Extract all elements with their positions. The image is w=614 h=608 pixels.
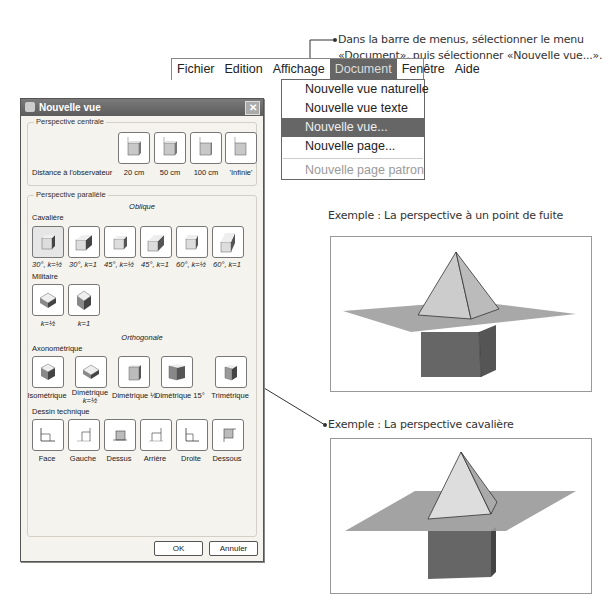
cavaliere-60-half-button[interactable] — [176, 226, 208, 258]
bottom-view-icon — [213, 420, 243, 450]
dimetrique-half-button[interactable] — [75, 356, 107, 388]
face-button[interactable] — [32, 419, 64, 451]
cavaliere-30-1-button[interactable] — [68, 226, 100, 258]
option-label: 30°, k=½ — [28, 260, 66, 269]
option-label: 50 cm — [154, 168, 186, 177]
option-label: 45°, k=1 — [136, 260, 174, 269]
option-label: Dimétrique ½ — [112, 391, 154, 400]
oblique-heading: Oblique — [28, 202, 256, 211]
option-label: 100 cm — [190, 168, 222, 177]
group-perspective-parallele: Perspective parallèle Oblique Cavalière … — [27, 195, 257, 537]
option-label: 60°, k=1 — [208, 260, 246, 269]
option-label: 20 cm — [118, 168, 150, 177]
dessin-technique-label: Dessin technique — [32, 407, 90, 416]
cube-icon — [33, 227, 63, 257]
cavaliere-45-1-button[interactable] — [140, 226, 172, 258]
cube-icon — [76, 357, 106, 387]
menu-bar: Fichier Edition Affichage Document Fenêt… — [171, 58, 424, 80]
option-label: 45°, k=½ — [100, 260, 138, 269]
distance-label: Distance à l'observateur — [32, 168, 112, 177]
option-label: Dessous — [210, 454, 244, 463]
cube-icon — [33, 285, 63, 315]
example-one-point-image — [330, 236, 592, 392]
cancel-button[interactable]: Annuler — [209, 541, 258, 556]
option-label: 'Infinie' — [225, 168, 257, 177]
cube-icon — [33, 357, 63, 387]
menu-fichier[interactable]: Fichier — [172, 59, 220, 80]
menu-edition[interactable]: Edition — [220, 59, 268, 80]
dessous-button[interactable] — [212, 419, 244, 451]
cube-icon — [213, 227, 243, 257]
cube-icon — [141, 227, 171, 257]
nouvelle-vue-dialog: Nouvelle vue ✕ Perspective centrale Dist… — [20, 98, 264, 562]
option-label: Droite — [174, 454, 208, 463]
dessus-button[interactable] — [104, 419, 136, 451]
cube-icon — [216, 357, 246, 387]
menu-item-nouvelle-vue-naturelle[interactable]: Nouvelle vue naturelle — [282, 80, 424, 99]
ok-button[interactable]: OK — [154, 541, 203, 556]
cavaliere-45-half-button[interactable] — [104, 226, 136, 258]
pyramid-one-point-illustration — [331, 237, 591, 391]
gauche-button[interactable] — [68, 419, 100, 451]
central-infinie-button[interactable] — [225, 132, 257, 164]
menu-item-nouvelle-vue-texte[interactable]: Nouvelle vue texte — [282, 99, 424, 118]
top-view-icon — [105, 420, 135, 450]
option-label: Face — [30, 454, 64, 463]
option-label: Trimétrique — [209, 391, 251, 400]
cube-icon — [119, 357, 149, 387]
trimetrique-button[interactable] — [215, 356, 247, 388]
app-icon — [25, 102, 35, 112]
militaire-1-button[interactable] — [68, 284, 100, 316]
menu-fenetre[interactable]: Fenêtre — [397, 59, 450, 80]
example-cavaliere-image — [330, 438, 592, 594]
menu-affichage[interactable]: Affichage — [268, 59, 330, 80]
dimetrique-demi-button[interactable] — [118, 356, 150, 388]
cube-icon — [69, 285, 99, 315]
face-view-icon — [33, 420, 63, 450]
arriere-button[interactable] — [140, 419, 172, 451]
option-label: k=½ — [32, 319, 64, 328]
central-50cm-button[interactable] — [154, 132, 186, 164]
menu-separator — [283, 158, 423, 159]
back-view-icon — [141, 420, 171, 450]
right-view-icon — [177, 420, 207, 450]
option-label: Gauche — [66, 454, 100, 463]
close-icon[interactable]: ✕ — [245, 101, 260, 115]
document-menu: Nouvelle vue naturelle Nouvelle vue text… — [281, 79, 425, 180]
option-label: k=½ — [69, 396, 111, 405]
cavaliere-label: Cavalière — [32, 213, 64, 222]
menu-document[interactable]: Document — [330, 59, 397, 80]
droite-button[interactable] — [176, 419, 208, 451]
cube-icon — [119, 133, 149, 163]
cube-icon — [177, 227, 207, 257]
militaire-half-button[interactable] — [32, 284, 64, 316]
central-20cm-button[interactable] — [118, 132, 150, 164]
cube-icon — [162, 357, 192, 387]
cavaliere-60-1-button[interactable] — [212, 226, 244, 258]
option-label: k=1 — [68, 319, 100, 328]
cavaliere-30-half-button[interactable] — [32, 226, 64, 258]
menu-item-nouvelle-vue[interactable]: Nouvelle vue... — [282, 118, 424, 137]
pyramid-cavaliere-illustration — [331, 439, 591, 593]
option-label: Isométrique — [26, 391, 68, 400]
dialog-titlebar[interactable]: Nouvelle vue ✕ — [21, 99, 263, 116]
militaire-label: Militaire — [32, 272, 58, 281]
left-view-icon — [69, 420, 99, 450]
cube-icon — [105, 227, 135, 257]
isometrique-button[interactable] — [32, 356, 64, 388]
axonometrique-label: Axonométrique — [32, 344, 82, 353]
dimetrique-15-button[interactable] — [161, 356, 193, 388]
dialog-title: Nouvelle vue — [39, 102, 101, 113]
option-label: 30°, k=1 — [64, 260, 102, 269]
group-label: Perspective centrale — [34, 117, 106, 126]
menu-item-nouvelle-page-patron: Nouvelle page patron — [282, 161, 424, 180]
example-cavaliere-caption: Exemple : La perspective cavalière — [328, 417, 514, 433]
group-perspective-centrale: Perspective centrale Distance à l'observ… — [27, 122, 257, 186]
menu-aide[interactable]: Aide — [450, 59, 485, 80]
instruction-line-1: Dans la barre de menus, sélectionner le … — [338, 32, 602, 48]
option-label: Dimétrique 15° — [155, 391, 199, 400]
menu-item-nouvelle-page[interactable]: Nouvelle page... — [282, 137, 424, 156]
cube-icon — [226, 133, 256, 163]
central-100cm-button[interactable] — [190, 132, 222, 164]
option-label: Arrière — [138, 454, 172, 463]
